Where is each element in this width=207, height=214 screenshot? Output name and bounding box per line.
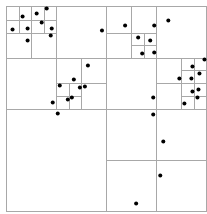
- data-point: [26, 27, 30, 31]
- quadtree-cell: [7, 21, 20, 34]
- quadtree-cell: [7, 110, 107, 212]
- quadtree-cell: [107, 7, 132, 34]
- data-point: [197, 72, 201, 76]
- quadtree-cell: [132, 34, 145, 46]
- data-point: [151, 96, 155, 100]
- data-point: [134, 202, 138, 206]
- quadtree-cell: [182, 59, 195, 71]
- data-point: [72, 78, 76, 82]
- quadtree-cell: [107, 110, 157, 161]
- quadtree-cell: [157, 161, 207, 212]
- data-point: [11, 28, 15, 32]
- data-point: [189, 77, 193, 81]
- data-point: [21, 15, 25, 19]
- quadtree-cell: [107, 59, 157, 110]
- data-point: [202, 58, 206, 62]
- quadtree-cell: [157, 110, 207, 161]
- quadtree-diagram: [0, 0, 207, 214]
- quadtree-cell: [107, 161, 157, 212]
- data-point: [49, 34, 53, 38]
- quadtree-cell: [32, 34, 57, 59]
- data-point: [158, 174, 162, 178]
- data-point: [152, 24, 156, 28]
- data-point: [51, 101, 55, 105]
- data-point: [177, 77, 181, 81]
- quadtree-cell: [20, 21, 32, 34]
- quadtree-cell: [195, 84, 207, 97]
- data-point: [190, 65, 194, 69]
- data-point: [56, 112, 60, 116]
- data-point: [196, 88, 200, 92]
- quadtree-cell: [7, 7, 20, 21]
- quadtree-cell: [157, 7, 207, 59]
- quadtree-points: [11, 7, 207, 206]
- quadtree-cell: [7, 34, 32, 59]
- data-point: [40, 21, 44, 25]
- data-point: [148, 39, 152, 43]
- data-point: [86, 64, 90, 68]
- data-point: [140, 52, 144, 56]
- quadtree-cell: [57, 59, 82, 84]
- data-point: [35, 12, 39, 16]
- data-point: [100, 29, 104, 33]
- quadtree-cell: [70, 84, 82, 97]
- data-point: [190, 90, 194, 94]
- quadtree-cell: [157, 84, 182, 110]
- quadtree-cell: [57, 7, 107, 59]
- data-point: [45, 7, 49, 11]
- data-point: [58, 84, 62, 88]
- quadtree-cell: [107, 34, 132, 59]
- quadtree-cell: [157, 59, 182, 84]
- data-point: [151, 113, 155, 117]
- quadtree-cell: [7, 59, 57, 110]
- data-point: [70, 96, 74, 100]
- data-point: [182, 102, 186, 106]
- quadtree-cell: [82, 59, 107, 84]
- data-point: [66, 98, 70, 102]
- quadtree-cell: [132, 7, 157, 34]
- data-point: [50, 27, 54, 31]
- data-point: [83, 85, 87, 89]
- data-point: [152, 51, 156, 55]
- quadtree-cells: [7, 7, 207, 212]
- data-point: [26, 39, 30, 43]
- data-point: [195, 96, 199, 100]
- data-point: [123, 24, 127, 28]
- data-point: [136, 36, 140, 40]
- data-point: [166, 19, 170, 23]
- quadtree-cell: [20, 7, 32, 21]
- data-point: [161, 140, 165, 144]
- data-point: [78, 86, 82, 90]
